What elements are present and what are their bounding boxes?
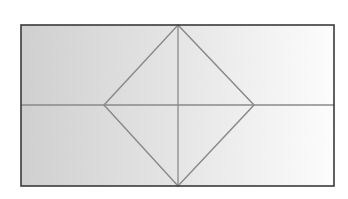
- geometric-figure: Rectangle with inscribed diamond and med…: [0, 0, 348, 199]
- figure-canvas: Rectangle with inscribed diamond and med…: [0, 0, 348, 199]
